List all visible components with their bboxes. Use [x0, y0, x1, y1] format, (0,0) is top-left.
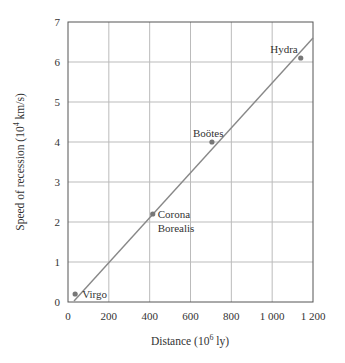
grid-lines: [68, 22, 313, 302]
x-tick-label: 1 000: [260, 310, 285, 322]
y-tick-label: 1: [55, 256, 61, 268]
point-label: Virgo: [82, 288, 107, 300]
y-axis-title: Speed of recession (104 km/s): [12, 93, 27, 231]
x-tick-label: 1 200: [301, 310, 326, 322]
y-tick-label: 0: [55, 296, 61, 308]
x-tick-label: 400: [141, 310, 158, 322]
y-tick-label: 7: [55, 16, 61, 28]
x-tick-label: 200: [101, 310, 118, 322]
point-label: Hydra: [270, 43, 298, 55]
x-tick-label: 800: [223, 310, 240, 322]
data-points: VirgoCoronaBorealisBoötesHydra: [73, 43, 304, 300]
point-label: Borealis: [158, 222, 195, 234]
x-tick-label: 600: [182, 310, 199, 322]
data-point: [73, 291, 78, 296]
point-label: Corona: [158, 208, 191, 220]
point-label: Boötes: [193, 127, 224, 139]
y-axis-ticks: 01234567: [55, 16, 61, 308]
y-tick-label: 2: [55, 216, 61, 228]
data-point: [298, 55, 303, 60]
data-point: [209, 139, 214, 144]
x-axis-ticks: 02004006008001 0001 200: [65, 310, 326, 322]
y-tick-label: 4: [55, 136, 61, 148]
y-tick-label: 5: [55, 96, 61, 108]
x-tick-label: 0: [65, 310, 71, 322]
y-tick-label: 6: [55, 56, 61, 68]
y-tick-label: 3: [55, 176, 61, 188]
hubble-chart: 01234567 02004006008001 0001 200 VirgoCo…: [0, 0, 345, 363]
data-point: [150, 211, 155, 216]
x-axis-title: Distance (106 ly): [151, 333, 229, 348]
